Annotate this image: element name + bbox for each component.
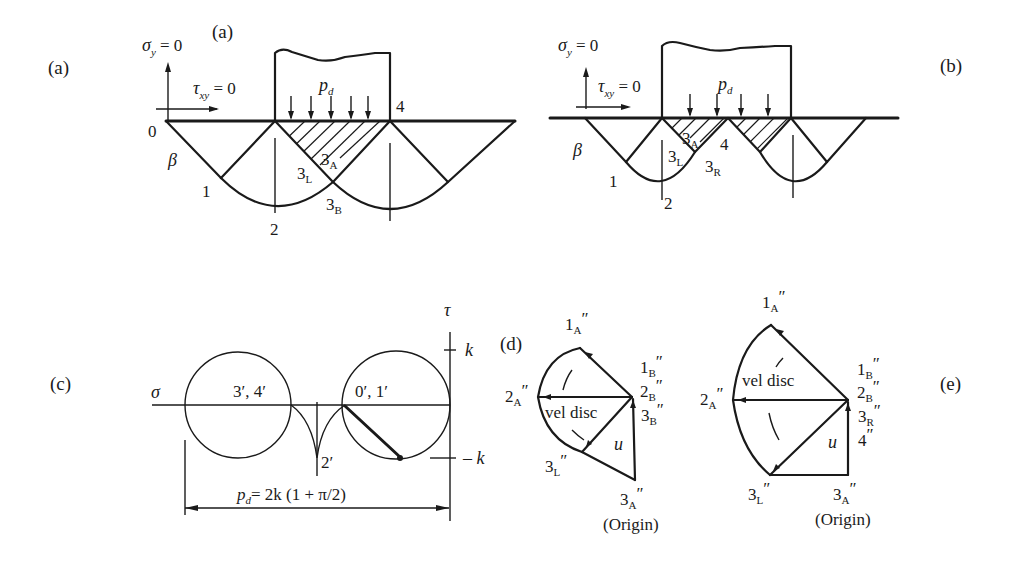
tau-xy-label: τxy = 0: [598, 76, 641, 99]
fan-arc-left: [626, 152, 695, 181]
panel-a-label: (a): [48, 57, 69, 79]
point-4-label: 4: [396, 97, 405, 116]
k-pos-label: k: [465, 340, 474, 360]
rotation-arrow: [776, 358, 783, 367]
panel-e: (e) 1A″ 1B″ 2B″ 3R″ 4″ 2A″ 3L″ 3A″ (Orig…: [700, 287, 961, 529]
panel-d-label: (d): [500, 333, 522, 355]
k-neg-label: – k: [462, 448, 486, 468]
point-3A-label: 3A″: [833, 479, 857, 506]
sigma-axis-label: σ: [151, 382, 161, 402]
point-1-label: 1: [202, 182, 211, 201]
point-2A-label: 2A″: [700, 384, 724, 411]
beta-label: β: [572, 140, 582, 160]
panel-a-inner-label: (a): [212, 21, 233, 43]
point-2B-label: 2B″: [857, 377, 880, 404]
point-4-label: 4″: [858, 425, 874, 450]
point-3R-label: 3R: [705, 157, 722, 178]
panel-c: (c) σ τ k – k 3′, 4′ 0′, 1′ 2′ pd= 2k (1…: [50, 300, 486, 521]
radius-line: [345, 406, 400, 457]
point-3B-label: 3B: [326, 195, 342, 216]
cusp-label: 2′: [321, 453, 333, 472]
panel-b-label: (b): [940, 55, 962, 77]
arrowhead-icon: [209, 106, 219, 112]
panel-e-label: (e): [940, 373, 961, 395]
tau-xy-label: τxy = 0: [193, 78, 236, 101]
point-3L-label: 3L: [668, 147, 684, 168]
arrowhead-icon: [165, 62, 171, 72]
panel-c-label: (c): [50, 373, 71, 395]
rotation-arrow: [563, 370, 572, 390]
slip-line-field-figure: (a) (a) σy = 0 τxy = 0 pd: [0, 0, 1015, 563]
panel-b: (b) σy = 0 τxy = 0 pd: [550, 35, 962, 213]
sigma-y-label: σy = 0: [142, 35, 182, 58]
arrowhead-icon: [543, 394, 551, 400]
origin-label: (Origin): [815, 510, 871, 529]
panel-a: (a) (a) σy = 0 τxy = 0 pd: [48, 21, 515, 239]
point-1B-label: 1B″: [640, 352, 663, 379]
point-3A-label: 3A: [321, 150, 338, 171]
right-circle-label: 0′, 1′: [355, 382, 388, 401]
u-label: u: [828, 432, 837, 452]
tau-axis-label: τ: [444, 300, 451, 320]
vel-disc-label: vel disc: [545, 403, 598, 422]
sigma-y-label: σy = 0: [558, 35, 598, 58]
hodograph-segment: [582, 452, 635, 480]
rotation-arrow: [572, 430, 584, 440]
u-label: u: [614, 434, 623, 454]
point-2B-label: 2B″: [640, 376, 663, 403]
arrowhead-icon: [621, 104, 631, 110]
load-arrows: [687, 94, 771, 117]
arrowhead-icon: [630, 400, 636, 408]
arrowhead-icon: [738, 397, 746, 403]
point-1A-label: 1A″: [762, 287, 786, 314]
u-vector: [633, 399, 635, 480]
point-4-label: 4: [720, 135, 729, 154]
load-pd-label: pd: [317, 75, 334, 97]
point-3A-label: 3A″: [620, 484, 644, 511]
load-arrows: [288, 96, 371, 120]
panel-d: (d) 1A″ 1B″ 2B″ 3B″ 2A″ 3L″ 3A″ (Origin)…: [500, 309, 664, 534]
point-0-label: 0: [148, 122, 157, 141]
vel-disc-label: vel disc: [742, 371, 795, 390]
rigid-zone-hatch: [730, 118, 788, 152]
point-3R-label: 3R″: [858, 401, 881, 428]
point-3L-label: 3L″: [748, 479, 770, 506]
hodograph-arc: [538, 348, 582, 452]
point-2-label: 2: [270, 220, 279, 239]
point-2-label: 2: [664, 194, 673, 213]
pole-point: [397, 455, 403, 461]
arrowhead-icon: [845, 403, 851, 411]
arrowhead-icon: [436, 505, 449, 511]
arrowhead-icon: [583, 67, 589, 77]
pd-formula: pd= 2k (1 + π/2): [236, 485, 346, 506]
point-1A-label: 1A″: [565, 309, 589, 336]
rotation-arrow: [769, 413, 779, 440]
point-3B-label: 3B″: [641, 400, 664, 427]
fan-arc-left: [221, 178, 333, 206]
point-1-label: 1: [609, 172, 618, 191]
origin-label: (Origin): [603, 515, 659, 534]
arrowhead-icon: [185, 505, 198, 511]
point-3L-label: 3L: [297, 164, 313, 185]
beta-label: β: [167, 150, 177, 170]
slip-line: [221, 121, 515, 182]
mohr-envelope-cusp: [291, 405, 345, 458]
point-2A-label: 2A″: [505, 381, 529, 408]
left-circle-label: 3′, 4′: [233, 382, 266, 401]
load-pd-label: pd: [716, 74, 733, 96]
point-3L-label: 3L″: [545, 451, 567, 478]
